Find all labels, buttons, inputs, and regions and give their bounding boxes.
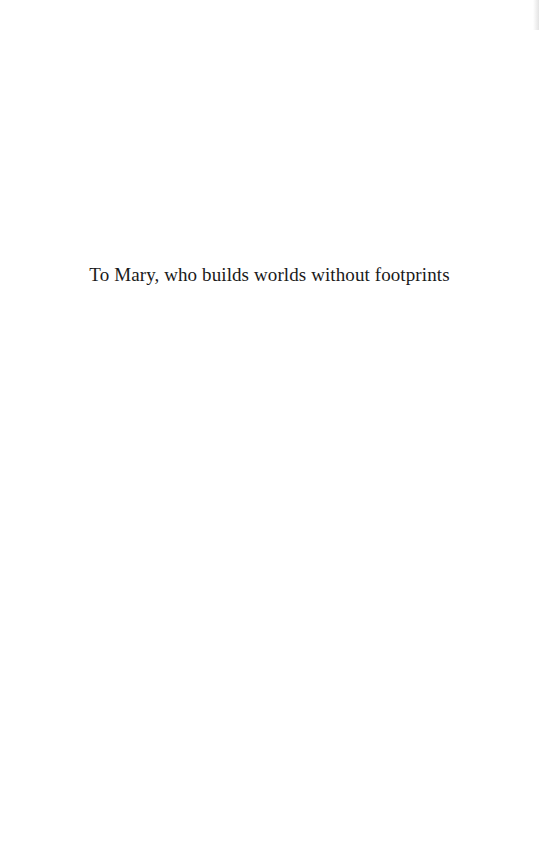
page-edge-shadow (533, 0, 539, 30)
dedication-text: To Mary, who builds worlds without footp… (0, 264, 539, 286)
book-page: To Mary, who builds worlds without footp… (0, 0, 539, 859)
